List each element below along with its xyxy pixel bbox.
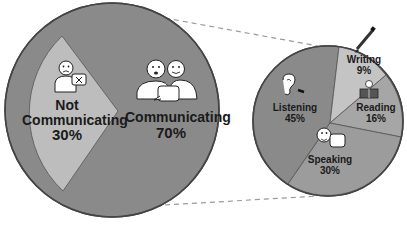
connector-line-bottom — [165, 196, 318, 205]
label-listening-name: Listening — [270, 103, 320, 114]
pencil-icon — [355, 26, 376, 53]
label-communicating: Communicating 70% — [125, 110, 217, 140]
label-writing: Writing 9% — [345, 55, 383, 76]
label-speaking-pct: 30% — [305, 166, 355, 177]
label-comm-pct: 70% — [125, 125, 217, 141]
label-not-line2: Communicating — [22, 113, 112, 128]
label-comm-name: Communicating — [125, 110, 217, 125]
label-not-pct: 30% — [22, 127, 112, 143]
label-writing-pct: 9% — [345, 66, 383, 77]
label-reading-pct: 16% — [355, 114, 397, 125]
label-writing-name: Writing — [345, 55, 383, 66]
label-not-line1: Not — [22, 98, 112, 113]
label-not-communicating: Not Communicating 30% — [22, 98, 112, 143]
label-speaking: Speaking 30% — [305, 155, 355, 176]
label-listening: Listening 45% — [270, 103, 320, 124]
label-reading: Reading 16% — [355, 103, 397, 124]
label-listening-pct: 45% — [270, 114, 320, 125]
label-reading-name: Reading — [355, 103, 397, 114]
label-speaking-name: Speaking — [305, 155, 355, 166]
